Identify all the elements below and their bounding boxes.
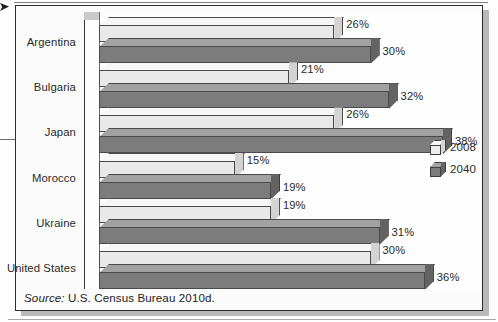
bar-value-label: 31% (392, 226, 415, 238)
bar-value-label: 26% (346, 18, 369, 30)
bar-value-label: 30% (383, 45, 406, 57)
bar-front-face (99, 136, 443, 153)
bar-2008-united-states (99, 243, 371, 260)
page-edge-top-rule (14, 2, 488, 3)
bar-2040-bulgaria (99, 83, 389, 100)
bar-2040-ukraine (99, 219, 380, 236)
bar-series-container: 26%30%21%32%26%38%15%19%19%31%30%36% (16, 6, 482, 286)
legend-item: 2040 (430, 158, 482, 180)
bar-value-label: 26% (346, 108, 369, 120)
bar-end-cap (380, 219, 389, 245)
legend-item: 2008 (430, 136, 482, 158)
bar-front-face (99, 272, 425, 289)
chart-legend: 20082040 (430, 136, 482, 180)
source-note-text: U.S. Census Bureau 2010d. (65, 291, 215, 304)
bar-2040-argentina (99, 38, 371, 55)
legend-label: 2008 (450, 141, 476, 153)
figure-page: ArgentinaBulgariaJapanMoroccoUkraineUnit… (0, 0, 498, 322)
bar-value-label: 15% (247, 154, 270, 166)
bar-front-face (99, 182, 271, 199)
bar-value-label: 19% (283, 199, 306, 211)
bar-value-label: 30% (383, 244, 406, 256)
bar-2040-united-states (99, 264, 425, 281)
cube-dark-icon (430, 162, 446, 177)
bar-front-face (99, 91, 389, 108)
page-margin-tick (0, 139, 15, 140)
bar-end-cap (389, 83, 398, 109)
bar-2040-japan (99, 128, 443, 145)
bar-2008-morocco (99, 153, 235, 170)
legend-cube-face-face (430, 145, 441, 155)
bar-front-face (99, 227, 380, 244)
bar-2008-ukraine (99, 198, 271, 215)
plot-area: ArgentinaBulgariaJapanMoroccoUkraineUnit… (16, 6, 482, 286)
bar-value-label: 19% (283, 181, 306, 193)
bar-value-label: 36% (437, 271, 460, 283)
bar-end-cap (271, 174, 280, 200)
page-edge-bottom-rule (8, 319, 496, 320)
page-corner-marker-icon (0, 3, 9, 11)
bar-2008-japan (99, 107, 334, 124)
cube-light-icon (430, 140, 446, 155)
legend-label: 2040 (450, 163, 476, 175)
source-note-prefix: Source: (24, 291, 65, 304)
bar-2008-argentina (99, 17, 334, 34)
bar-value-label: 21% (301, 63, 324, 75)
bar-end-cap (371, 38, 380, 64)
bar-front-face (99, 46, 371, 63)
figure-frame: ArgentinaBulgariaJapanMoroccoUkraineUnit… (15, 5, 483, 311)
legend-cube-side-face (441, 140, 446, 155)
source-note: Source: U.S. Census Bureau 2010d. (24, 291, 215, 304)
legend-cube-face-face (430, 167, 441, 177)
bar-2008-bulgaria (99, 62, 289, 79)
legend-cube-side-face (441, 162, 446, 177)
bar-2040-morocco (99, 174, 271, 191)
bar-value-label: 32% (401, 90, 424, 102)
